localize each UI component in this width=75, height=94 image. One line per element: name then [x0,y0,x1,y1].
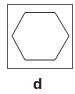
figure-label: d [0,76,75,92]
frame-box [8,5,73,69]
